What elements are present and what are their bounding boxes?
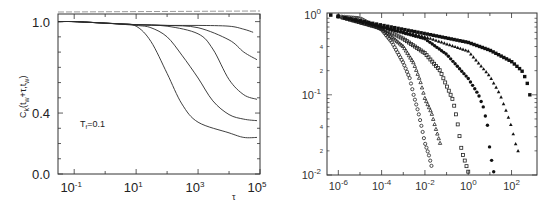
x-tick-label: 10-4 (372, 178, 392, 192)
plot-border (58, 14, 260, 174)
x-tick-label: 10-2 (415, 178, 435, 192)
left-chart-panel: 1.00.40.010-1101103105τCk(tw+τ,tw)Tf=0.1 (0, 0, 275, 204)
marker-series-filled-squares (337, 15, 532, 97)
y-tick-label: 10-2 (302, 167, 322, 181)
x-tick-label: 101 (124, 180, 143, 195)
x-tick-label: 102 (503, 178, 520, 192)
x-tick-label: 10-6 (329, 178, 349, 192)
correlation-curve-5 (58, 22, 253, 33)
y-minor-tick-label: 4 (320, 124, 324, 130)
y-tick-label: 0.4 (32, 106, 50, 121)
y-tick-label: 100 (304, 7, 321, 21)
y-tick-label: 0.0 (32, 167, 50, 182)
right-scatter-chart: 10010-110-2424210-610-410-2100102 (275, 0, 549, 204)
left-plot-frame (58, 11, 260, 174)
marker-series-filled-circles (337, 15, 496, 174)
right-chart-panel: 10010-110-2424210-610-410-2100102 (275, 0, 549, 204)
temperature-annotation: Tf=0.1 (80, 119, 105, 130)
left-line-chart: 1.00.40.010-1101103105τCk(tw+τ,tw)Tf=0.1 (0, 0, 275, 204)
correlation-curve-2 (58, 22, 257, 121)
y-axis-label: Ck(tw+τ,tw) (18, 76, 30, 118)
x-axis-label: τ (232, 192, 236, 202)
x-tick-label: 103 (186, 180, 205, 195)
y-minor-tick-label: 2 (320, 68, 324, 74)
y-minor-tick-label: 2 (320, 148, 324, 154)
x-tick-label: 100 (460, 178, 477, 192)
right-plot-frame (327, 13, 537, 175)
y-minor-tick-label: 4 (320, 44, 324, 50)
correlation-curve-3 (58, 22, 257, 100)
y-tick-label: 10-1 (302, 87, 322, 101)
y-tick-label: 1.0 (32, 15, 50, 30)
right-markers (329, 13, 532, 173)
plot-border (327, 13, 537, 175)
x-tick-label: 105 (248, 180, 267, 195)
x-tick-label: 10-1 (60, 180, 82, 195)
